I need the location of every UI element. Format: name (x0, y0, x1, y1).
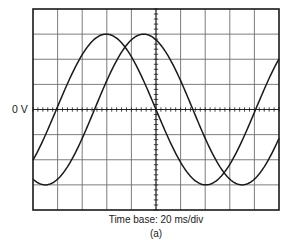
oscilloscope-display (0, 0, 287, 243)
timebase-caption: Time base: 20 ms/div (0, 214, 287, 225)
figure-label: (a) (0, 228, 287, 239)
zero-volt-axis-label: 0 V (12, 103, 28, 115)
